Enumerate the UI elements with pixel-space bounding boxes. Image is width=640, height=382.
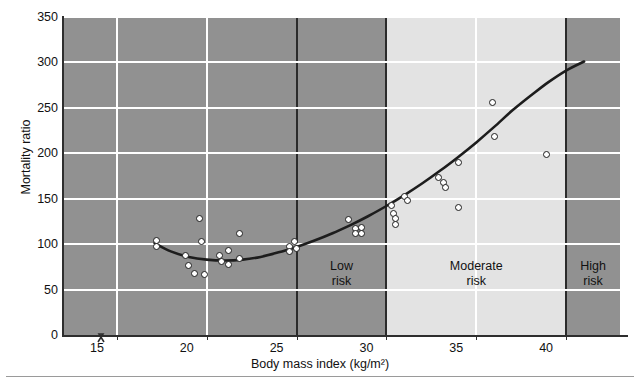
chart-figure: LowriskModerateriskHighrisk 350300250200… — [0, 0, 640, 382]
x-axis-line — [62, 335, 628, 337]
data-point — [236, 230, 243, 237]
data-point — [191, 270, 198, 277]
risk-label-moderate-risk: Moderaterisk — [386, 259, 566, 289]
risk-label-line1: Low — [297, 259, 387, 274]
data-point — [543, 151, 550, 158]
x-tick-mark-25 — [297, 335, 298, 340]
x-axis-title: Body mass index (kg/m²) — [0, 357, 640, 371]
data-point — [182, 252, 189, 259]
y-axis-title: Mortality ratio — [19, 102, 33, 212]
x-tick-35: 35 — [436, 341, 476, 355]
data-point — [198, 238, 205, 245]
risk-label-line2: risk — [297, 274, 387, 289]
data-point — [358, 230, 365, 237]
y-tick-350: 350 — [24, 10, 58, 24]
x-tick-mark-35 — [476, 335, 477, 340]
y-tick-50: 50 — [24, 283, 58, 297]
risk-label-line1: High — [566, 259, 620, 274]
data-point — [455, 159, 462, 166]
y-tick-300: 300 — [24, 55, 58, 69]
y-tick-100: 100 — [24, 237, 58, 251]
data-point — [392, 221, 399, 228]
risk-label-line2: risk — [386, 274, 566, 289]
plot-area: LowriskModerateriskHighrisk — [63, 17, 620, 335]
y-tick-0: 0 — [24, 328, 58, 342]
data-point — [225, 247, 232, 254]
x-tick-40: 40 — [526, 341, 566, 355]
data-point — [225, 261, 232, 268]
data-point — [185, 262, 192, 269]
risk-label-line1: Moderate — [386, 259, 566, 274]
data-point — [218, 258, 225, 265]
data-point — [286, 248, 293, 255]
footer-divider — [6, 376, 634, 377]
y-axis-line — [62, 16, 64, 336]
x-tick-mark-40 — [566, 335, 567, 340]
x-tick-mark-15 — [117, 335, 118, 340]
x-tick-mark-20 — [207, 335, 208, 340]
data-point — [489, 99, 496, 106]
x-tick-30: 30 — [346, 341, 386, 355]
x-tick-mark-30 — [386, 335, 387, 340]
x-tick-15: 15 — [77, 341, 117, 355]
data-point — [388, 202, 395, 209]
risk-label-line2: risk — [566, 274, 620, 289]
x-tick-25: 25 — [257, 341, 297, 355]
data-point — [236, 255, 243, 262]
x-tick-20: 20 — [167, 341, 207, 355]
risk-label-low-risk: Lowrisk — [297, 259, 387, 289]
risk-label-high-risk: Highrisk — [566, 259, 620, 289]
